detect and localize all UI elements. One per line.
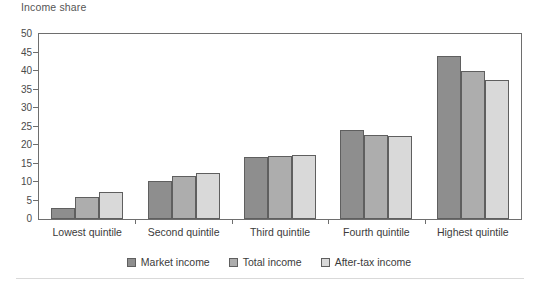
bar[interactable] — [244, 157, 268, 219]
legend-entry[interactable]: Total income — [229, 256, 302, 268]
legend-swatch-icon — [229, 258, 238, 267]
x-axis-tick-mark — [135, 220, 136, 224]
x-axis-tick-mark — [328, 220, 329, 224]
bar[interactable] — [485, 80, 509, 219]
legend-entry[interactable]: After-tax income — [321, 256, 411, 268]
y-axis-tick-label: 30 — [0, 102, 32, 113]
legend-label: Market income — [141, 256, 210, 268]
y-axis-tick-label: 5 — [0, 194, 32, 205]
bar[interactable] — [340, 130, 364, 219]
y-axis-tick-label: 15 — [0, 157, 32, 168]
bar[interactable] — [461, 71, 485, 219]
income-share-bar-chart: Income share 05101520253035404550 Lowest… — [0, 0, 538, 281]
chart-legend: Market incomeTotal incomeAfter-tax incom… — [0, 256, 538, 268]
bar[interactable] — [75, 197, 99, 219]
bar[interactable] — [437, 56, 461, 219]
legend-label: After-tax income — [335, 256, 411, 268]
bar[interactable] — [51, 208, 75, 219]
legend-swatch-icon — [321, 258, 330, 267]
x-axis-tick-marks — [39, 220, 521, 225]
y-axis-tick-label: 10 — [0, 176, 32, 187]
x-axis-tick-label: Highest quintile — [437, 226, 509, 238]
bar[interactable] — [364, 135, 388, 219]
x-axis-tick-label: Third quintile — [250, 226, 310, 238]
bar[interactable] — [99, 192, 123, 219]
bar[interactable] — [268, 156, 292, 219]
y-axis-tick-label: 20 — [0, 139, 32, 150]
legend-entry[interactable]: Market income — [127, 256, 210, 268]
y-axis-tick-label: 50 — [0, 28, 32, 39]
x-axis-tick-mark — [425, 220, 426, 224]
bar[interactable] — [148, 181, 172, 219]
bar-group — [135, 34, 231, 219]
bar-group — [425, 34, 521, 219]
x-axis-labels: Lowest quintileSecond quintileThird quin… — [39, 226, 521, 244]
legend-swatch-icon — [127, 258, 136, 267]
plot-area — [39, 34, 521, 219]
y-axis-labels: 05101520253035404550 — [0, 33, 32, 220]
bar-group — [39, 34, 135, 219]
bottom-divider — [16, 278, 524, 279]
y-axis-tick-label: 0 — [0, 213, 32, 224]
y-axis-tick-label: 35 — [0, 83, 32, 94]
x-axis-tick-label: Second quintile — [148, 226, 220, 238]
x-axis-tick-label: Fourth quintile — [343, 226, 410, 238]
bar-group — [232, 34, 328, 219]
y-axis-tick-label: 25 — [0, 120, 32, 131]
y-axis-tick-label: 45 — [0, 46, 32, 57]
bar[interactable] — [172, 176, 196, 219]
x-axis-tick-mark — [232, 220, 233, 224]
bar-group — [328, 34, 424, 219]
legend-label: Total income — [243, 256, 302, 268]
bar[interactable] — [196, 173, 220, 219]
bar[interactable] — [388, 136, 412, 219]
chart-title: Income share — [21, 1, 86, 13]
x-axis-tick-label: Lowest quintile — [52, 226, 121, 238]
y-axis-tick-label: 40 — [0, 65, 32, 76]
bar[interactable] — [292, 155, 316, 219]
